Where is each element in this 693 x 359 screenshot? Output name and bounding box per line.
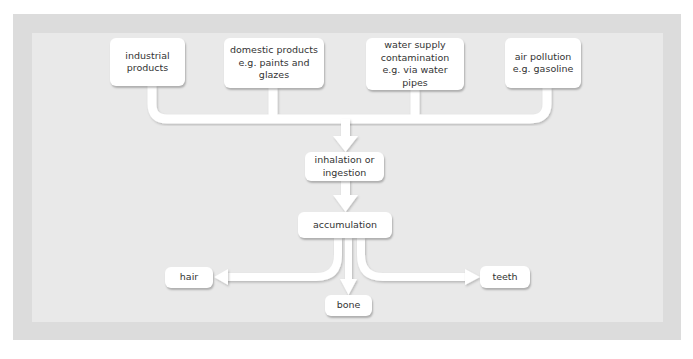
bone-label: bone [337,299,361,312]
accumulation-node: accumulation [298,212,392,238]
intake-inhalation-ingestion: inhalation or ingestion [305,152,384,181]
arrow-to-accumulation [333,180,358,212]
arrow-shaft-to-bone [345,238,352,280]
label-line: e.g. via water pipes [369,64,461,89]
target-hair: hair [165,267,213,288]
arrow-to-bone [340,279,357,295]
arrow-to-hair [214,269,228,285]
label-line: domestic products [227,44,321,57]
label-line: e.g. paints and glazes [227,57,321,82]
label-line: air pollution [513,51,574,64]
label-line: contamination [369,52,461,65]
teeth-label: teeth [492,271,517,284]
source-collector [152,86,547,119]
source-water-supply: water supply contamination e.g. via wate… [366,38,464,90]
label-line: inhalation or [315,154,375,167]
label-line: water supply [369,39,461,52]
source-air-pollution: air pollution e.g. gasoline [505,38,581,88]
label-line: industrial [125,50,169,63]
source-industrial-products: industrial products [110,38,185,86]
source-domestic-products: domestic products e.g. paints and glazes [224,38,324,88]
label-line: ingestion [315,167,375,180]
target-teeth: teeth [480,266,530,288]
branch-arrowheads [214,238,480,295]
target-bone: bone [325,295,372,316]
label-line: e.g. gasoline [513,63,574,76]
label-line: products [125,62,169,75]
hair-label: hair [180,271,198,284]
accumulation-label: accumulation [313,219,377,232]
arrow-to-intake [333,119,358,152]
arrow-to-teeth [465,269,480,285]
